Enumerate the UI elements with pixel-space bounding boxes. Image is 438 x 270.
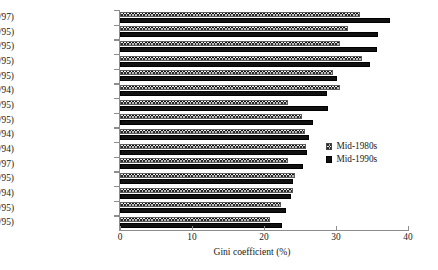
x-axis-tick-label: 40 <box>388 232 428 242</box>
x-axis-tick <box>336 226 337 231</box>
bar-mid-1990s[interactable] <box>120 135 309 140</box>
chart-category-row: Finland (87/95) <box>0 215 438 230</box>
category-label: Norway (86/95) <box>0 171 14 186</box>
category-label: Sweden (87/95) <box>0 201 14 216</box>
category-label: Luxembourg (85/94) <box>0 186 14 201</box>
chart-category-row: Sweden (87/95) <box>0 201 438 216</box>
chart-legend: Mid-1980s Mid-1990s <box>326 140 377 166</box>
bar-mid-1990s[interactable] <box>120 32 378 37</box>
chart-category-row: Norway (86/95) <box>0 171 438 186</box>
category-label: Netherlands (87/94) <box>0 142 14 157</box>
bar-mid-1980s[interactable] <box>120 12 360 17</box>
bar-mid-1990s[interactable] <box>120 76 337 81</box>
legend-swatch-icon-mid-1980s <box>326 143 332 149</box>
category-label: Italy (86/95) <box>0 39 14 54</box>
x-axis-tick <box>264 226 265 231</box>
bar-mid-1990s[interactable] <box>120 164 303 169</box>
chart-category-row: France (84/94) <box>0 83 438 98</box>
bar-mid-1980s[interactable] <box>120 173 295 178</box>
category-label: Belgium (85/97) <box>0 157 14 172</box>
chart-category-row: Luxembourg (85/94) <box>0 186 438 201</box>
bar-mid-1980s[interactable] <box>120 41 340 46</box>
category-label: France (84/94) <box>0 83 14 98</box>
bar-mid-1990s[interactable] <box>120 18 390 23</box>
chart-category-row: Canada (87/95) <box>0 69 438 84</box>
bar-mid-1980s[interactable] <box>120 114 302 119</box>
x-axis-tick <box>192 226 193 231</box>
bar-mid-1980s[interactable] <box>120 85 340 90</box>
x-axis-tick <box>408 226 409 231</box>
bar-mid-1990s[interactable] <box>120 91 327 96</box>
bar-mid-1980s[interactable] <box>120 100 288 105</box>
category-label: US (86/97) <box>0 10 14 25</box>
category-label: Canada (87/95) <box>0 69 14 84</box>
bar-mid-1990s[interactable] <box>120 106 328 111</box>
bar-mid-1980s[interactable] <box>120 158 288 163</box>
x-axis-title-label: Gini coefficient (%) <box>213 246 290 257</box>
bar-mid-1980s[interactable] <box>120 202 281 207</box>
x-axis-tick-label: 20 <box>244 232 284 242</box>
x-axis-tick <box>120 226 121 231</box>
category-label: Austria (87/95) <box>0 98 14 113</box>
bar-mid-1980s[interactable] <box>120 56 362 61</box>
bar-mid-1990s[interactable] <box>120 47 377 52</box>
chart-category-row: Italy (86/95) <box>0 39 438 54</box>
category-label: Finland (87/95) <box>0 215 14 230</box>
bar-mid-1980s[interactable] <box>120 26 348 31</box>
bar-mid-1980s[interactable] <box>120 188 293 193</box>
bar-mid-1980s[interactable] <box>120 70 333 75</box>
chart-category-row: Austria (87/95) <box>0 98 438 113</box>
bar-mid-1990s[interactable] <box>120 120 313 125</box>
x-axis-tick-label: 0 <box>100 232 140 242</box>
bar-mid-1990s[interactable] <box>120 194 291 199</box>
category-label: UK (86/95) <box>0 25 14 40</box>
legend-label-mid-1990s: Mid-1990s <box>336 153 377 166</box>
legend-label-mid-1980s: Mid-1980s <box>336 140 377 153</box>
legend-swatch-icon-mid-1990s <box>326 156 332 162</box>
chart-category-row: Denmark (87/95) <box>0 113 438 128</box>
x-axis-tick-label: 10 <box>172 232 212 242</box>
chart-category-row: UK (86/95) <box>0 25 438 40</box>
x-axis-title: Gini coefficient (%) <box>0 246 438 257</box>
bar-mid-1980s[interactable] <box>120 144 306 149</box>
category-label: Denmark (87/95) <box>0 113 14 128</box>
bar-mid-1980s[interactable] <box>120 129 305 134</box>
x-axis-tick-label: 30 <box>316 232 356 242</box>
category-label: Germany (84/94) <box>0 127 14 142</box>
category-label: Ireland (87/95) <box>0 54 14 69</box>
chart-category-row: US (86/97) <box>0 10 438 25</box>
bar-mid-1990s[interactable] <box>120 179 293 184</box>
bar-mid-1990s[interactable] <box>120 208 286 213</box>
bar-mid-1990s[interactable] <box>120 223 282 228</box>
legend-item-mid-1990s[interactable]: Mid-1990s <box>326 153 377 166</box>
bar-mid-1990s[interactable] <box>120 150 307 155</box>
gini-coefficient-bar-chart: US (86/97)UK (86/95)Italy (86/95)Ireland… <box>0 0 438 270</box>
bar-mid-1980s[interactable] <box>120 217 270 222</box>
legend-item-mid-1980s[interactable]: Mid-1980s <box>326 140 377 153</box>
chart-category-row: Ireland (87/95) <box>0 54 438 69</box>
bar-mid-1990s[interactable] <box>120 62 370 67</box>
